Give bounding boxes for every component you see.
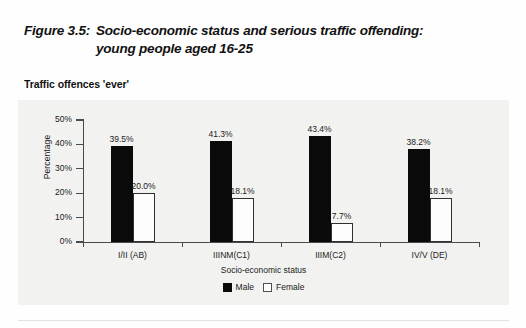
y-axis-tick-label: 50% — [30, 115, 72, 124]
bar-female[interactable] — [430, 198, 452, 242]
x-axis-tick-label: IIIM(C2) — [315, 250, 346, 260]
bar-male[interactable] — [408, 149, 430, 242]
y-axis-tick — [76, 193, 84, 194]
plot-area: Percentage 0%10%20%30%40%50% I/II (AB)II… — [18, 100, 509, 305]
legend-entry-female[interactable]: Female — [263, 282, 304, 292]
bar-value-label: 43.4% — [307, 124, 331, 134]
bar-value-label: 7.7% — [332, 211, 351, 221]
y-axis-tick-label: 0% — [30, 237, 72, 246]
chart-legend: Male Female — [18, 282, 509, 292]
legend-label-female: Female — [276, 282, 304, 292]
bar-female[interactable] — [133, 193, 155, 242]
y-axis-line — [83, 120, 84, 243]
bar-value-label: 39.5% — [109, 134, 133, 144]
legend-swatch-female-icon — [263, 283, 272, 292]
y-axis-tick — [76, 217, 84, 218]
x-axis-tick — [182, 242, 183, 247]
bar-value-label: 18.1% — [230, 186, 254, 196]
x-axis-tick — [479, 242, 480, 247]
y-axis-tick-label: 10% — [30, 213, 72, 222]
chart-panel: Percentage 0%10%20%30%40%50% I/II (AB)II… — [18, 100, 509, 305]
figure-container: Figure 3.5: Socio-economic status and se… — [0, 0, 526, 328]
y-axis-tick — [76, 119, 84, 120]
x-axis-tick — [281, 242, 282, 247]
chart-subtitle: Traffic offences 'ever' — [24, 78, 129, 90]
figure-heading: Figure 3.5: Socio-economic status and se… — [24, 22, 494, 56]
y-axis-tick-label: 30% — [30, 164, 72, 173]
bar-male[interactable] — [210, 141, 232, 242]
bar-female[interactable] — [232, 198, 254, 242]
bottom-divider — [18, 320, 509, 321]
y-axis-tick — [76, 168, 84, 169]
figure-title-row-2: young people aged 16-25 — [24, 41, 494, 56]
x-axis-tick-label: IIINM(C1) — [213, 250, 250, 260]
bar-male[interactable] — [111, 146, 133, 242]
y-axis-tick-label: 40% — [30, 139, 72, 148]
figure-number: Figure 3.5: — [24, 23, 96, 38]
x-axis-tick-label: I/II (AB) — [118, 250, 147, 260]
figure-title-row: Figure 3.5: Socio-economic status and se… — [24, 22, 494, 39]
bar-male[interactable] — [309, 136, 331, 242]
legend-swatch-male-icon — [223, 283, 232, 292]
y-axis-tick-label: 20% — [30, 188, 72, 197]
x-axis-tick — [83, 242, 84, 247]
figure-title-line-1: Socio-economic status and serious traffi… — [96, 22, 423, 39]
y-axis-tick — [76, 144, 84, 145]
bar-value-label: 38.2% — [406, 137, 430, 147]
legend-entry-male[interactable]: Male — [223, 282, 254, 292]
x-axis-tick — [380, 242, 381, 247]
x-axis-tick-label: IV/V (DE) — [412, 250, 448, 260]
legend-label-male: Male — [236, 282, 254, 292]
x-axis-title: Socio-economic status — [18, 265, 509, 275]
figure-title-line-2: young people aged 16-25 — [96, 41, 253, 56]
bar-value-label: 18.1% — [428, 186, 452, 196]
bar-value-label: 20.0% — [131, 181, 155, 191]
bar-value-label: 41.3% — [208, 129, 232, 139]
bar-female[interactable] — [331, 223, 353, 242]
